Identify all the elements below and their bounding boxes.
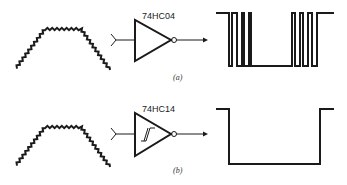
input-arrow-tail-a — [111, 34, 134, 46]
clean-output-waveform — [216, 109, 334, 164]
panel-label-b: (b) — [173, 166, 183, 175]
panel-b: 74HC14 (b) — [17, 104, 335, 175]
chip-label-74hc04: 74HC04 — [142, 11, 175, 21]
arrowhead-icon-a — [203, 38, 208, 43]
panel-a: 74HC04 (a) — [17, 11, 335, 82]
arrowhead-icon-b — [203, 132, 208, 137]
input-arrow-tail-b — [111, 128, 134, 140]
inverter-gate-symbol-a — [135, 20, 171, 61]
chattering-output-waveform — [216, 13, 334, 66]
noisy-input-waveform-b — [17, 126, 111, 167]
chip-label-74hc14: 74HC14 — [142, 104, 175, 114]
diagram-svg: 74HC04 (a) 74HC14 (b) — [0, 0, 347, 185]
hysteresis-icon — [141, 128, 155, 141]
schmitt-trigger-comparison-diagram: 74HC04 (a) 74HC14 (b) — [0, 0, 347, 185]
noisy-input-waveform-a — [17, 28, 111, 70]
schmitt-gate-symbol-b — [135, 113, 171, 156]
panel-label-a: (a) — [173, 73, 183, 82]
